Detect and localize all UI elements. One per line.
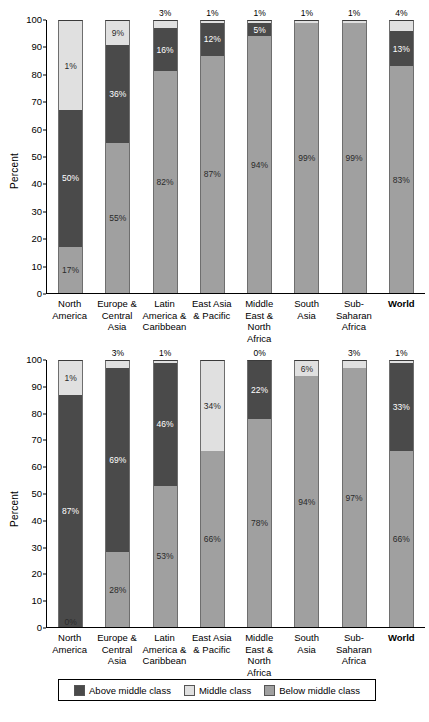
bar-segment-above[interactable]: 12% xyxy=(200,23,225,56)
segment-value-label: 1% xyxy=(206,9,218,18)
y-tick-label: 0 xyxy=(18,623,42,633)
chart-page: Percent 0102030405060708090100 1%50%17%9… xyxy=(0,0,429,722)
y-tick-label: 90 xyxy=(18,43,42,53)
x-axis-category-label: Sub-Saharan Africa xyxy=(330,298,377,344)
bar-segment-below[interactable]: 99% xyxy=(294,23,319,293)
y-tick-label: 20 xyxy=(18,234,42,244)
segment-value-label: 83% xyxy=(390,175,413,184)
segment-value-label: 94% xyxy=(295,497,318,506)
segment-value-label: 66% xyxy=(390,535,413,544)
stacked-bar[interactable]: 1%50%17% xyxy=(58,20,83,293)
chart-legend: Above middle classMiddle classBelow midd… xyxy=(58,679,376,701)
y-tick-label: 20 xyxy=(18,570,42,580)
x-axis-category-label: North America xyxy=(46,632,93,678)
bar-slot: 0%22%78% xyxy=(236,360,283,627)
y-tick-label: 10 xyxy=(18,596,42,606)
bar-segment-below[interactable]: 17% xyxy=(58,247,83,293)
bar-segment-below[interactable]: 53% xyxy=(153,486,178,628)
bar-segment-above[interactable]: 50% xyxy=(58,110,83,247)
bar-slot: 1%46%53% xyxy=(142,360,189,627)
y-tick-label: 100 xyxy=(18,15,42,25)
bar-segment-above[interactable]: 13% xyxy=(389,31,414,66)
segment-value-label: 0% xyxy=(253,349,265,358)
segment-value-label: 82% xyxy=(154,178,177,187)
bar-segment-below[interactable]: 78% xyxy=(247,419,272,627)
bar-segment-below[interactable]: 94% xyxy=(247,36,272,293)
segment-value-label: 1% xyxy=(395,349,407,358)
bar-segment-above[interactable]: 87% xyxy=(58,395,83,627)
bar-segment-middle[interactable]: 6% xyxy=(294,360,319,376)
stacked-bar[interactable]: 1%33%66% xyxy=(389,360,414,627)
y-tick-label: 100 xyxy=(18,355,42,365)
bar-segment-above[interactable]: 46% xyxy=(153,363,178,486)
bar-segment-middle[interactable]: 1% xyxy=(58,20,83,110)
stacked-bar[interactable]: 1%99% xyxy=(342,20,367,293)
bar-segment-below[interactable]: 28% xyxy=(105,552,130,627)
legend-item[interactable]: Above middle class xyxy=(74,685,171,696)
segment-value-label: 50% xyxy=(59,174,82,183)
stacked-bar[interactable]: 1%46%53% xyxy=(153,360,178,627)
segment-value-label: 6% xyxy=(295,364,318,373)
legend-item[interactable]: Middle class xyxy=(184,685,251,696)
bar-segment-middle[interactable] xyxy=(105,360,130,368)
bar-segment-middle[interactable]: 9% xyxy=(105,20,130,45)
bar-segment-middle[interactable]: 1% xyxy=(58,360,83,395)
y-tick-label: 50 xyxy=(18,152,42,162)
y-tick-label: 30 xyxy=(18,543,42,553)
legend-label: Below middle class xyxy=(279,685,360,696)
x-axis-category-label: Latin America & Caribbean xyxy=(141,632,188,678)
stacked-bar[interactable]: 0%22%78% xyxy=(247,360,272,627)
stacked-bar[interactable]: 4%13%83% xyxy=(389,20,414,293)
x-axis-category-label: World xyxy=(378,298,425,344)
legend-item[interactable]: Below middle class xyxy=(264,685,360,696)
bar-segment-middle[interactable]: 34% xyxy=(200,360,225,451)
bar-segment-below[interactable]: 99% xyxy=(342,23,367,293)
segment-value-label: 55% xyxy=(106,214,129,223)
stacked-bar[interactable]: 1%87%0% xyxy=(58,360,83,627)
bar-segment-below[interactable]: 83% xyxy=(389,66,414,293)
segment-value-label: 66% xyxy=(201,535,224,544)
stacked-bar[interactable]: 6%94% xyxy=(294,360,319,627)
stacked-bar[interactable]: 3%69%28% xyxy=(105,360,130,627)
bar-segment-below[interactable]: 87% xyxy=(200,56,225,294)
segment-value-label: 33% xyxy=(390,402,413,411)
y-tick-label: 0 xyxy=(18,289,42,299)
segment-value-label: 1% xyxy=(348,9,360,18)
segment-value-label: 36% xyxy=(106,89,129,98)
bar-segment-above[interactable]: 69% xyxy=(105,368,130,552)
plot-wrapper-top: Percent 0102030405060708090100 1%50%17%9… xyxy=(0,6,429,336)
y-tick-label: 10 xyxy=(18,262,42,272)
bar-segment-above[interactable]: 22% xyxy=(247,360,272,419)
bar-segment-above[interactable]: 5% xyxy=(247,23,272,37)
bar-segment-above[interactable]: 36% xyxy=(105,45,130,143)
stacked-bar[interactable]: 1%5%94% xyxy=(247,20,272,293)
bar-segment-below[interactable]: 66% xyxy=(200,451,225,627)
stacked-bar[interactable]: 1%99% xyxy=(294,20,319,293)
bar-segment-below[interactable]: 97% xyxy=(342,368,367,627)
stacked-bar[interactable]: 3%97% xyxy=(342,360,367,627)
bar-segment-below[interactable]: 66% xyxy=(389,451,414,627)
bar-segment-middle[interactable] xyxy=(342,360,367,368)
y-tick-label: 40 xyxy=(18,516,42,526)
plot-wrapper-bottom: Percent 0102030405060708090100 1%87%0%3%… xyxy=(0,346,429,672)
segment-value-label: 22% xyxy=(248,386,271,395)
bar-segment-below[interactable]: 82% xyxy=(153,71,178,293)
bar-segment-middle[interactable] xyxy=(153,20,178,28)
plot-area-bottom: 1%87%0%3%69%28%1%46%53%34%66%0%22%78%6%9… xyxy=(46,360,425,628)
bar-segment-below[interactable]: 94% xyxy=(294,376,319,627)
stacked-bar[interactable]: 34%66% xyxy=(200,360,225,627)
x-axis-labels-top: North AmericaEurope & Central AsiaLatin … xyxy=(46,298,425,344)
bar-segment-above[interactable]: 33% xyxy=(389,363,414,451)
stacked-bar[interactable]: 1%12%87% xyxy=(200,20,225,293)
segment-value-label: 17% xyxy=(59,266,82,275)
x-axis-category-label: World xyxy=(378,632,425,678)
bar-slot: 6%94% xyxy=(283,360,330,627)
bar-slot: 1%33%66% xyxy=(378,360,425,627)
bar-segment-above[interactable]: 16% xyxy=(153,28,178,71)
segment-value-label: 34% xyxy=(201,402,224,411)
stacked-bar[interactable]: 3%16%82% xyxy=(153,20,178,293)
segment-value-label: 99% xyxy=(343,154,366,163)
bar-segment-below[interactable]: 55% xyxy=(105,143,130,293)
bar-segment-middle[interactable] xyxy=(389,20,414,31)
stacked-bar[interactable]: 9%36%55% xyxy=(105,20,130,293)
